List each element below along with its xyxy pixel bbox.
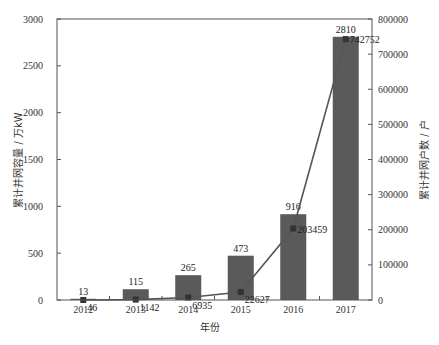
left-tick-label: 2500: [23, 60, 43, 71]
right-tick-label: 700000: [378, 49, 408, 60]
combo-chart: 050010001500200025003000 010000020000030…: [0, 0, 439, 345]
right-y-axis-title: 累计并网户数 / 户: [418, 120, 430, 200]
capacity-bars: 131152654739162810: [70, 24, 359, 300]
right-tick-label: 800000: [378, 14, 408, 25]
right-tick-label: 600000: [378, 84, 408, 95]
line-value-label: 203459: [297, 224, 327, 235]
left-tick-label: 0: [38, 295, 43, 306]
bar-value-label: 13: [78, 286, 88, 297]
right-tick-label: 400000: [378, 154, 408, 165]
bar-value-label: 115: [128, 276, 143, 287]
left-y-axis-title: 累计并网容量 / 万kW: [12, 112, 24, 208]
x-tick-label: 2016: [283, 304, 303, 315]
x-tick-label: 2015: [231, 304, 251, 315]
bar-value-label: 473: [233, 243, 248, 254]
left-y-axis-ticks: 050010001500200025003000: [23, 14, 61, 306]
line-marker: [343, 36, 349, 42]
left-tick-label: 500: [28, 248, 43, 259]
left-tick-label: 1000: [23, 201, 43, 212]
x-axis-title: 年份: [200, 321, 220, 333]
line-marker: [290, 226, 296, 232]
right-tick-label: 200000: [378, 224, 408, 235]
line-marker: [238, 289, 244, 295]
right-tick-label: 500000: [378, 119, 408, 130]
x-tick-label: 2017: [336, 304, 356, 315]
x-tick-label: 2014: [178, 304, 198, 315]
right-tick-label: 0: [378, 295, 383, 306]
plot-frame: [57, 19, 372, 300]
right-tick-label: 100000: [378, 259, 408, 270]
right-tick-label: 300000: [378, 189, 408, 200]
left-tick-label: 1500: [23, 154, 43, 165]
x-axis-ticks: 201220132014201520162017: [73, 296, 356, 315]
x-tick-label: 2012: [73, 304, 93, 315]
bar-value-label: 265: [181, 262, 196, 273]
left-tick-label: 3000: [23, 14, 43, 25]
bar: [333, 37, 359, 300]
line-value-label: 742752: [350, 34, 380, 45]
right-y-axis-ticks: 0100000200000300000400000500000600000700…: [368, 14, 408, 306]
x-tick-label: 2013: [126, 304, 146, 315]
left-tick-label: 2000: [23, 107, 43, 118]
